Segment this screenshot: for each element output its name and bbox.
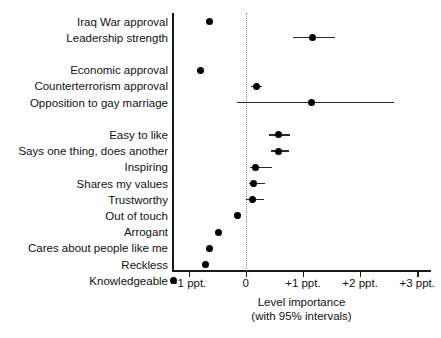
x-axis-line	[172, 270, 431, 272]
plot-area	[172, 13, 431, 272]
x-tick-label: +3 ppt.	[400, 277, 436, 289]
category-label: Economic approval	[70, 64, 168, 76]
category-label: Out of touch	[105, 210, 168, 222]
confidence-interval-bar	[237, 102, 394, 104]
category-label-column: Iraq War approvalLeadership strengthEcon…	[0, 13, 168, 272]
estimate-dot	[252, 164, 259, 171]
category-label: Cares about people like me	[28, 242, 168, 254]
x-tick-label: +1 ppt.	[285, 277, 321, 289]
x-tick-label: 0	[243, 277, 249, 289]
category-label: Counterterrorism approval	[34, 80, 168, 92]
category-label: Knowledgeable	[89, 275, 168, 287]
estimate-dot	[275, 131, 282, 138]
estimate-dot	[215, 229, 222, 236]
category-label: Shares my values	[77, 178, 168, 190]
x-axis-title: Level importance	[172, 296, 431, 310]
x-tick-label: +2 ppt.	[342, 277, 378, 289]
y-axis-line	[172, 13, 174, 272]
estimate-dot	[249, 196, 256, 203]
estimate-dot	[250, 180, 257, 187]
zero-reference-line	[246, 13, 247, 271]
estimate-dot	[197, 67, 204, 74]
estimate-dot	[234, 212, 241, 219]
category-label: Opposition to gay marriage	[30, 97, 168, 109]
estimate-dot	[275, 148, 282, 155]
category-label: Inspiring	[125, 161, 168, 173]
x-axis-subtitle: (with 95% intervals)	[172, 310, 431, 324]
category-label: Arrogant	[124, 226, 168, 238]
category-label: Leadership strength	[66, 32, 168, 44]
estimate-dot	[253, 83, 260, 90]
category-label: Reckless	[121, 259, 168, 271]
x-axis-caption: Level importance (with 95% intervals)	[172, 296, 431, 323]
estimate-dot	[202, 261, 209, 268]
category-label: Iraq War approval	[77, 16, 168, 28]
estimate-dot	[309, 34, 316, 41]
estimate-dot	[308, 99, 315, 106]
x-tick-label: −1 ppt.	[171, 277, 207, 289]
dot-plot-figure: Iraq War approvalLeadership strengthEcon…	[0, 0, 441, 338]
x-axis-tick-labels: −1 ppt.0+1 ppt.+2 ppt.+3 ppt.	[172, 273, 431, 291]
category-label: Says one thing, does another	[18, 145, 168, 157]
category-label: Easy to like	[109, 129, 168, 141]
estimate-dot	[206, 18, 213, 25]
category-label: Trustworthy	[108, 194, 168, 206]
estimate-dot	[206, 245, 213, 252]
